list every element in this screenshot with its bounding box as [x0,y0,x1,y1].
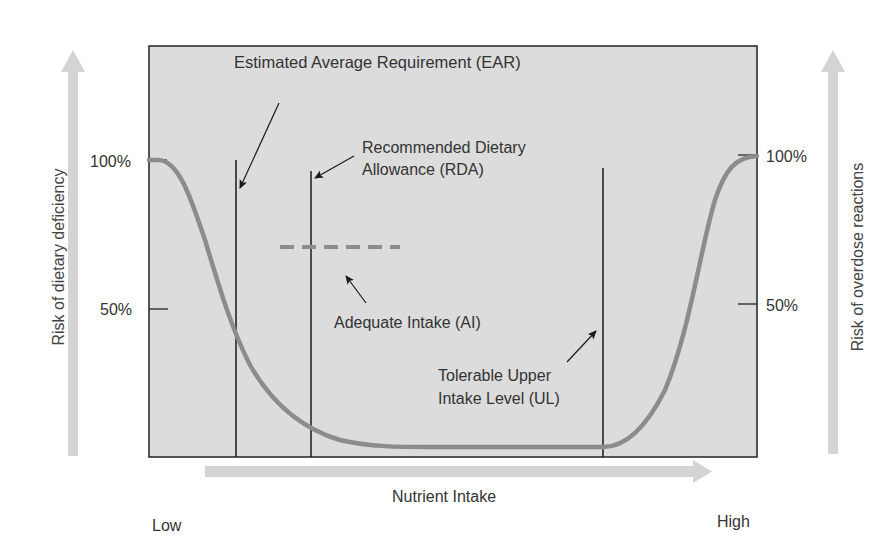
ai-label: Adequate Intake (AI) [334,313,481,333]
right-tick-100: 100% [766,147,807,167]
ear-label: Estimated Average Requirement (EAR) [234,52,521,72]
ul-label-line1: Tolerable Upper [438,366,551,386]
left-tick-50: 50% [100,300,132,320]
y-axis-right-label: Risk of overdose reactions [848,157,868,357]
ul-label-line2: Intake Level (UL) [438,389,560,409]
x-axis-arrow-icon [205,460,712,483]
rda-label-line2: Allowance (RDA) [362,160,484,180]
x-axis-label: Nutrient Intake [392,487,496,507]
x-low-label: Low [152,516,181,536]
chart-canvas [0,0,884,551]
rda-label-line1: Recommended Dietary [362,138,526,158]
x-high-label: High [717,512,750,532]
right-tick-50: 50% [766,296,798,316]
y-axis-left-label: Risk of dietary deficiency [49,157,69,357]
right-axis-arrow-icon [821,50,845,454]
left-tick-100: 100% [90,152,131,172]
